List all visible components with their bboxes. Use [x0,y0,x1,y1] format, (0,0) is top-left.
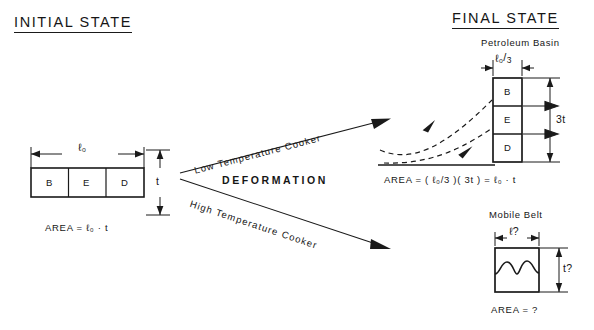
petroleum-basin-drawing [370,0,594,200]
deformation-arrow-lines [0,0,400,280]
petroleum-width-denominator: 3 [507,55,512,65]
petroleum-height-label: 3t [556,113,565,125]
petroleum-width-label: ℓ₀/3 [495,52,512,63]
mobile-belt-width-label: ℓ? [509,225,519,237]
petroleum-cell-e: E [504,114,511,125]
mobile-belt-height-label: t? [563,262,572,274]
petroleum-cell-d: D [504,142,511,153]
petroleum-basin-group: Petroleum Basin ℓ₀/3 3t B [370,0,594,200]
mobile-belt-group: Mobile Belt ℓ? t? AREA = ? [460,200,594,330]
petroleum-cell-b: B [504,86,511,97]
deformation-label: DEFORMATION [222,174,328,186]
deformation-arrows-group: Low Temperature Cooker High Temperature … [0,0,400,280]
petroleum-area-formula: AREA = ( ℓ₀/3 )( 3t ) = ℓ₀ · t [384,174,516,185]
mobile-belt-area-formula: AREA = ? [491,304,538,315]
